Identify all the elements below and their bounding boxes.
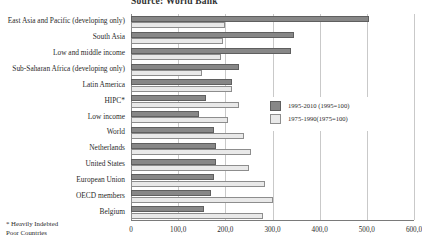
bar: [131, 32, 294, 38]
bar: [131, 70, 202, 76]
x-axis-tick-labels: 0100,0200,0300,0400,0500,0600,0: [131, 226, 414, 240]
bar: [131, 79, 232, 85]
chart-title: Source: World Bank: [131, 0, 311, 6]
x-tick-label: 0: [129, 226, 133, 234]
bar: [131, 213, 263, 219]
bar: [131, 206, 204, 212]
bar-group: [131, 204, 414, 220]
bar-group: [131, 172, 414, 188]
category-label: European Union: [76, 176, 125, 184]
category-label: South Asia: [93, 33, 125, 41]
category-label: Low and middle income: [53, 49, 125, 57]
category-label: Latin America: [83, 81, 125, 89]
x-tick-label: 500,0: [359, 226, 375, 234]
bar: [131, 64, 239, 70]
bar-group: [131, 62, 414, 78]
bar: [131, 143, 216, 149]
category-label: World: [107, 128, 125, 136]
x-tick-label: 200,0: [217, 226, 233, 234]
bar: [131, 159, 216, 165]
legend-label: 1975-1990(1975=100): [288, 114, 348, 123]
bar-group: [131, 30, 414, 46]
category-axis-labels: East Asia and Pacific (developing only)S…: [0, 14, 127, 220]
footnote-line-2: Poor Countries: [6, 229, 116, 238]
x-tick-label: 400,0: [312, 226, 328, 234]
bar: [131, 38, 223, 44]
bar-group: [131, 46, 414, 62]
category-label: Sub-Saharan Africa (developing only): [12, 65, 125, 73]
bar-group: [131, 188, 414, 204]
chart-legend: 1995-2010 (1995=100)1975-1990(1975=100): [266, 97, 384, 131]
bar: [131, 48, 291, 54]
bar: [131, 174, 214, 180]
footnote: * Heavily Indebted Poor Countries: [6, 220, 116, 237]
category-label: Belgium: [100, 208, 125, 216]
legend-swatch: [270, 114, 281, 124]
category-label: OECD members: [76, 192, 125, 200]
x-tick-label: 100,0: [170, 226, 186, 234]
category-label: HIPC*: [104, 97, 125, 105]
legend-label: 1995-2010 (1995=100): [288, 101, 349, 110]
gridline: [414, 14, 415, 220]
bar: [131, 181, 265, 187]
bar: [131, 16, 369, 22]
bar: [131, 102, 239, 108]
x-tick-label: 300,0: [264, 226, 280, 234]
bar: [131, 165, 249, 171]
bar-group: [131, 141, 414, 157]
bar-group: [131, 157, 414, 173]
category-label: Low income: [88, 113, 125, 121]
bar: [131, 95, 206, 101]
bar-group: [131, 77, 414, 93]
bar: [131, 190, 211, 196]
x-axis-line: [131, 220, 414, 221]
category-label: East Asia and Pacific (developing only): [8, 17, 125, 25]
category-label: United States: [85, 160, 125, 168]
bar: [131, 86, 232, 92]
bar: [131, 133, 244, 139]
legend-swatch: [270, 101, 281, 111]
bar: [131, 117, 228, 123]
category-label: Netherlands: [89, 144, 125, 152]
bar: [131, 197, 273, 203]
bar: [131, 22, 225, 28]
bar-group: [131, 14, 414, 30]
footnote-line-1: * Heavily Indebted: [6, 220, 116, 229]
bar: [131, 54, 221, 60]
x-tick-label: 600,0: [406, 226, 422, 234]
bar: [131, 149, 251, 155]
bar: [131, 111, 199, 117]
bar: [131, 127, 214, 133]
